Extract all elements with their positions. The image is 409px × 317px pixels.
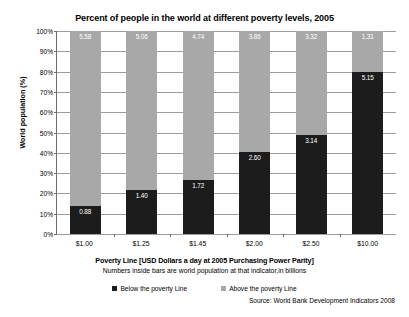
source-label: Source: World Bank Development Indicator…: [249, 297, 395, 304]
y-tick-label: 30%: [40, 170, 53, 177]
legend-swatch-icon: [112, 286, 117, 291]
x-tick-label: $2.00: [226, 240, 283, 247]
x-tick-label: $10.00: [339, 240, 396, 247]
legend-item[interactable]: Above the poverty Line: [221, 285, 296, 292]
x-tick-mark: [114, 234, 115, 237]
x-tick-mark: [227, 234, 228, 237]
y-tick-label: 90%: [40, 48, 53, 55]
y-axis-title: World population (%): [18, 58, 27, 168]
y-tick-label: 40%: [40, 149, 53, 156]
x-tick-label: $1.00: [56, 240, 113, 247]
x-tick-marks: [57, 31, 396, 234]
x-axis-note: Numbers inside bars are world population…: [0, 267, 409, 274]
y-tick-label: 70%: [40, 88, 53, 95]
plot-area: 100%90%80%70%60%50%40%30%20%10%0% 5.580.…: [56, 31, 396, 235]
x-tick-mark: [340, 234, 341, 237]
chart-legend: Below the poverty LineAbove the poverty …: [0, 285, 409, 292]
y-tick-label: 0%: [43, 231, 53, 238]
chart-title: Percent of people in the world at differ…: [0, 13, 409, 23]
y-tick-label: 20%: [40, 190, 53, 197]
y-tick-label: 100%: [36, 28, 53, 35]
x-tick-label: $1.45: [169, 240, 226, 247]
legend-swatch-icon: [221, 286, 226, 291]
y-tick-label: 10%: [40, 210, 53, 217]
legend-label: Below the poverty Line: [120, 285, 187, 292]
y-tick-mark: [54, 234, 57, 235]
legend-item[interactable]: Below the poverty Line: [112, 285, 187, 292]
y-tick-label: 50%: [40, 129, 53, 136]
x-tick-mark: [170, 234, 171, 237]
x-tick-label: $1.25: [113, 240, 170, 247]
chart-container: Percent of people in the world at differ…: [0, 0, 409, 317]
x-axis-tick-labels: $1.00$1.25$1.45$2.00$2.50$10.00: [56, 240, 396, 247]
x-tick-mark: [283, 234, 284, 237]
y-tick-label: 60%: [40, 109, 53, 116]
x-tick-label: $2.50: [283, 240, 340, 247]
y-tick-label: 80%: [40, 68, 53, 75]
legend-label: Above the poverty Line: [229, 285, 296, 292]
x-axis-title: Poverty Line [USD Dollars a day at 2005 …: [0, 256, 409, 265]
